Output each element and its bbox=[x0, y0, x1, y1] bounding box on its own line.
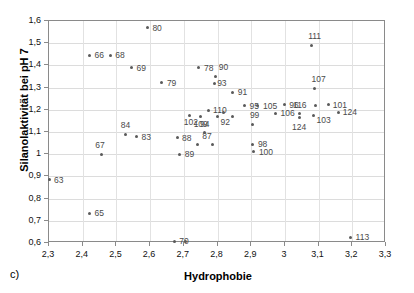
data-point bbox=[178, 153, 181, 156]
y-axis-tick-mark bbox=[44, 20, 48, 21]
x-axis-tick-mark bbox=[351, 242, 352, 246]
data-point bbox=[222, 111, 225, 114]
y-axis-tick-label: 1,5 bbox=[0, 38, 41, 47]
data-point-label: 103 bbox=[317, 116, 331, 125]
data-point-label: 68 bbox=[115, 51, 124, 60]
data-point bbox=[337, 111, 340, 114]
data-point bbox=[203, 131, 206, 134]
data-point-label: 99 bbox=[250, 111, 259, 120]
data-point bbox=[48, 178, 51, 181]
data-point-label: 124 bbox=[292, 123, 306, 132]
data-point bbox=[251, 123, 254, 126]
data-point bbox=[214, 75, 217, 78]
data-point-label: 78 bbox=[204, 64, 213, 73]
y-axis-tick-label: 1,2 bbox=[0, 105, 41, 114]
data-point-label: 113 bbox=[356, 233, 370, 242]
data-point-label: 69 bbox=[137, 64, 146, 73]
data-point-label: 89 bbox=[185, 150, 194, 159]
y-axis-tick-mark bbox=[44, 153, 48, 154]
data-point bbox=[310, 44, 313, 47]
data-point bbox=[109, 54, 112, 57]
gridline-horizontal bbox=[49, 221, 384, 222]
x-axis-tick-label: 3,3 bbox=[365, 250, 405, 259]
x-axis-tick-mark bbox=[48, 242, 49, 246]
data-point-label: 67 bbox=[95, 141, 104, 150]
data-point-label: 105 bbox=[263, 102, 277, 111]
scatter-chart-figure: 6365666867697078798083848889879093919495… bbox=[0, 0, 414, 293]
data-point-label: 109 bbox=[194, 120, 208, 129]
data-point bbox=[100, 153, 103, 156]
x-axis-tick-mark bbox=[115, 242, 116, 246]
data-point-label: 79 bbox=[167, 79, 176, 88]
y-axis-tick-label: 0,7 bbox=[0, 216, 41, 225]
data-point bbox=[207, 109, 210, 112]
data-point-label: 124 bbox=[343, 108, 357, 117]
data-point bbox=[211, 143, 214, 146]
x-axis-tick-mark bbox=[385, 242, 386, 246]
gridline-horizontal bbox=[49, 199, 384, 200]
data-point bbox=[130, 66, 133, 69]
plot-area: 6365666867697078798083848889879093919495… bbox=[48, 20, 385, 242]
data-point bbox=[146, 26, 149, 29]
data-point bbox=[160, 81, 163, 84]
data-point bbox=[327, 103, 330, 106]
x-axis-tick-mark bbox=[183, 242, 184, 246]
y-axis-tick-mark bbox=[44, 220, 48, 221]
gridline-vertical bbox=[285, 21, 286, 241]
data-point-label: 84 bbox=[121, 121, 130, 130]
data-point-label: 111 bbox=[308, 32, 321, 41]
data-point bbox=[135, 135, 138, 138]
gridline-vertical bbox=[150, 21, 151, 241]
x-axis-title: Hydrophobie bbox=[118, 270, 318, 282]
y-axis-tick-mark bbox=[44, 175, 48, 176]
x-axis-tick-mark bbox=[250, 242, 251, 246]
data-point bbox=[252, 150, 255, 153]
data-point-label: 100 bbox=[259, 148, 273, 157]
y-axis-tick-mark bbox=[44, 131, 48, 132]
y-axis-tick-label: 0,6 bbox=[0, 238, 41, 247]
data-point-label: 66 bbox=[94, 51, 103, 60]
data-point-label: 88 bbox=[182, 134, 191, 143]
y-axis-tick-mark bbox=[44, 87, 48, 88]
y-axis-tick-label: 0,8 bbox=[0, 194, 41, 203]
gridline-vertical bbox=[83, 21, 84, 241]
x-axis-tick-mark bbox=[82, 242, 83, 246]
data-point bbox=[251, 143, 254, 146]
data-point bbox=[124, 133, 127, 136]
data-point bbox=[88, 54, 91, 57]
data-point bbox=[298, 112, 301, 115]
y-axis-tick-label: 1,6 bbox=[0, 16, 41, 25]
y-axis-tick-mark bbox=[44, 42, 48, 43]
data-point bbox=[176, 136, 179, 139]
data-point bbox=[197, 66, 200, 69]
y-axis-tick-label: 1,1 bbox=[0, 127, 41, 136]
data-point-label: 83 bbox=[142, 133, 151, 142]
x-axis-tick-mark bbox=[217, 242, 218, 246]
data-point bbox=[216, 115, 219, 118]
gridline-vertical bbox=[184, 21, 185, 241]
data-point-label: 116 bbox=[293, 101, 307, 110]
data-point bbox=[314, 104, 317, 107]
data-point bbox=[312, 114, 315, 117]
data-point-label: 91 bbox=[238, 88, 247, 97]
x-axis-tick-mark bbox=[284, 242, 285, 246]
gridline-horizontal bbox=[49, 176, 384, 177]
data-point-label: 80 bbox=[152, 24, 161, 33]
data-point-label: 107 bbox=[312, 75, 326, 84]
data-point bbox=[274, 112, 277, 115]
data-point bbox=[243, 104, 246, 107]
data-point-label: 90 bbox=[219, 63, 228, 72]
y-axis-tick-mark bbox=[44, 64, 48, 65]
figure-caption: c) bbox=[10, 268, 19, 280]
data-point-label: 106 bbox=[280, 109, 294, 118]
data-point bbox=[88, 212, 91, 215]
data-point bbox=[199, 115, 202, 118]
gridline-horizontal bbox=[49, 65, 384, 66]
y-axis-tick-mark bbox=[44, 198, 48, 199]
data-point bbox=[313, 87, 316, 90]
y-axis-tick-mark bbox=[44, 109, 48, 110]
y-axis-tick-label: 1,4 bbox=[0, 60, 41, 69]
data-point bbox=[213, 82, 216, 85]
data-point-label: 63 bbox=[54, 176, 63, 185]
data-point-label: 92 bbox=[221, 118, 230, 127]
